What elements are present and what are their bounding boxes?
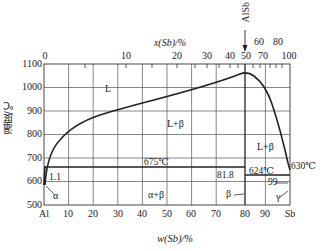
eutectic-675-label: 675℃ (144, 156, 169, 167)
eutectic-624-label: 624℃ (249, 165, 274, 176)
x-axis-bottom-label: w(Sb)/% (140, 233, 210, 244)
x-top-tick-100: 100 (277, 50, 301, 61)
gamma-comp-label: 99 (268, 177, 278, 187)
y-tick-1000: 1000 (14, 81, 42, 92)
sb-melting-label: 630℃ (291, 160, 316, 171)
x-top-upper-tick-80: 80 (268, 36, 288, 47)
region-alpha-beta: α+β (148, 189, 164, 200)
region-alpha: α (53, 190, 58, 201)
x-top-tick-20: 20 (167, 50, 187, 61)
x-tick-40: 40 (132, 208, 152, 219)
x-tick-30: 30 (108, 208, 128, 219)
beta-leader (234, 194, 244, 195)
y-tick-900: 900 (14, 105, 42, 116)
x-tick-sb: Sb (280, 208, 300, 219)
x-tick-10: 10 (58, 208, 78, 219)
y-tick-600: 600 (14, 175, 42, 186)
x-top-upper-tick-60: 60 (249, 36, 269, 47)
region-liquid: L (105, 83, 111, 94)
x-top-tick-0: 0 (40, 50, 50, 61)
x-tick-70: 70 (206, 208, 226, 219)
top-axis-ticks (85, 64, 282, 68)
region-beta: β (226, 188, 231, 199)
x-top-tick-30: 30 (197, 50, 217, 61)
y-tick-800: 800 (14, 128, 42, 139)
alsb-label: AlSb (240, 2, 251, 23)
x-tick-al: Al (34, 208, 54, 219)
region-liquid-beta-right: L+β (257, 141, 274, 152)
grid (44, 64, 290, 205)
x-top-tick-70: 70 (253, 50, 273, 61)
eutectic-comp-label: 81.8 (217, 170, 234, 180)
x-tick-60: 60 (181, 208, 201, 219)
x-tick-50: 50 (157, 208, 177, 219)
region-liquid-beta-left: L+β (167, 118, 184, 129)
alpha-solubility-label: 1.1 (49, 172, 61, 182)
x-tick-20: 20 (83, 208, 103, 219)
y-axis-label: 温度/℃ (3, 100, 15, 134)
x-tick-90: 90 (255, 208, 275, 219)
alpha-solidus (44, 166, 45, 185)
region-gamma: γ (276, 191, 280, 202)
y-tick-1100: 1100 (14, 58, 42, 69)
x-tick-80: 80 (235, 208, 255, 219)
x-axis-top-label: x(Sb)/% (140, 37, 200, 48)
y-tick-700: 700 (14, 152, 42, 163)
x-top-tick-10: 10 (116, 50, 136, 61)
